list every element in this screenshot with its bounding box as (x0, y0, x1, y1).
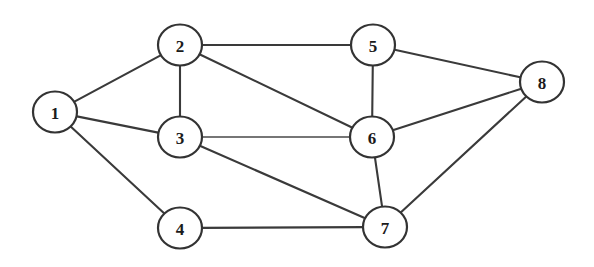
edge-layer (70, 45, 526, 228)
graph-node-4[interactable]: 4 (158, 208, 202, 249)
graph-node-label-8: 8 (538, 74, 547, 93)
graph-node-label-6: 6 (368, 129, 377, 148)
graph-edge-3-7 (199, 145, 366, 218)
graph-node-3[interactable]: 3 (158, 117, 202, 158)
graph-node-label-2: 2 (176, 37, 185, 56)
graph-edge-2-6 (199, 54, 353, 128)
graph-node-label-1: 1 (51, 104, 60, 123)
graph-edge-1-2 (74, 55, 162, 102)
graph-edge-4-7 (201, 227, 364, 228)
graph-edge-5-8 (394, 49, 522, 77)
graph-edge-7-8 (400, 96, 526, 213)
graph-node-label-7: 7 (381, 219, 390, 238)
graph-edge-1-4 (70, 126, 164, 213)
graph-edge-1-3 (76, 116, 160, 133)
graph-node-label-3: 3 (176, 129, 185, 148)
graph-diagram: 12345678 (0, 0, 594, 267)
graph-edge-6-8 (392, 88, 522, 130)
graph-edge-6-7 (375, 158, 382, 206)
graph-node-5[interactable]: 5 (351, 25, 395, 66)
graph-node-label-5: 5 (369, 37, 378, 56)
graph-node-1[interactable]: 1 (33, 92, 77, 133)
graph-node-2[interactable]: 2 (158, 25, 202, 66)
graph-node-6[interactable]: 6 (350, 117, 394, 158)
graph-canvas: 12345678 (0, 0, 594, 267)
graph-node-label-4: 4 (176, 220, 185, 239)
graph-node-7[interactable]: 7 (363, 207, 407, 248)
graph-node-8[interactable]: 8 (520, 62, 564, 103)
graph-edge-5-6 (372, 66, 373, 116)
